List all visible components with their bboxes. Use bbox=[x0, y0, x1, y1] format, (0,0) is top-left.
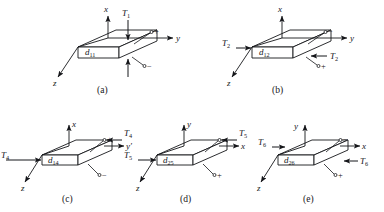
stress-label-t5-left-d: T5 bbox=[124, 150, 132, 161]
panel-caption-d: (d) bbox=[180, 194, 191, 205]
panel-caption-b: (b) bbox=[272, 85, 283, 96]
stress-label-t2-left-b: T2 bbox=[222, 38, 230, 49]
stress-label-t6-left-e: T6 bbox=[258, 137, 266, 148]
stress-label-t5-right-d: T5 bbox=[239, 128, 247, 139]
axis-label-y-b: y bbox=[349, 33, 354, 43]
terminal-sign-plus-c: + bbox=[107, 134, 112, 144]
axis-label-z-c: z bbox=[20, 183, 25, 193]
panel-b: x y z T2 T2 − + d12 (b) bbox=[222, 4, 354, 96]
terminal-sign-plus-d: + bbox=[217, 170, 222, 180]
panel-e: y x z T6 T6 − + d26 (e) bbox=[256, 121, 368, 205]
piezoelectric-coefficient-figure: x y z T1 + − d11 (a) bbox=[0, 0, 384, 212]
terminal-sign-plus-b: + bbox=[321, 61, 326, 71]
axis-label-x-a: x bbox=[103, 4, 108, 14]
panel-c: x y′ z T4 T4 + − d14 (c) bbox=[1, 119, 133, 205]
terminal-sign-minus-e: − bbox=[343, 134, 348, 144]
panel-caption-a: (a) bbox=[97, 85, 108, 96]
axis-label-z-b: z bbox=[226, 78, 231, 88]
panel-d: y x z T5 T5 − + d25 (d) bbox=[124, 119, 247, 205]
terminal-sign-minus-b: − bbox=[328, 26, 333, 36]
terminal-sign-minus-c: − bbox=[102, 170, 107, 180]
panel-a: x y z T1 + − d11 (a) bbox=[52, 4, 180, 96]
terminal-sign-minus-a: − bbox=[147, 61, 152, 71]
axis-label-x-c: x bbox=[71, 119, 76, 129]
stress-label-t4-right-c: T4 bbox=[124, 128, 132, 139]
axis-label-x-e: x bbox=[361, 141, 366, 151]
terminal-sign-minus-d: − bbox=[222, 134, 227, 144]
panel-caption-c: (c) bbox=[62, 194, 73, 205]
axis-label-z-a: z bbox=[52, 78, 57, 88]
stress-label-t1-a: T1 bbox=[122, 8, 130, 19]
axis-label-y-a: y bbox=[175, 33, 180, 43]
axis-label-z-d: z bbox=[135, 183, 140, 193]
stress-label-t4-left-c: T4 bbox=[1, 150, 9, 161]
panel-caption-e: (e) bbox=[303, 194, 314, 205]
terminal-sign-plus-e: + bbox=[338, 170, 343, 180]
axis-label-y-d: y bbox=[186, 119, 191, 129]
terminal-sign-plus-a: + bbox=[154, 26, 159, 36]
stress-label-t6-right-e: T6 bbox=[360, 156, 368, 167]
axis-label-x-b: x bbox=[277, 4, 282, 14]
stress-label-t2-right-b: T2 bbox=[330, 51, 338, 62]
axis-label-z-e: z bbox=[256, 183, 261, 193]
axis-label-y-e: y bbox=[293, 121, 298, 131]
axis-label-x-d: x bbox=[240, 141, 245, 151]
